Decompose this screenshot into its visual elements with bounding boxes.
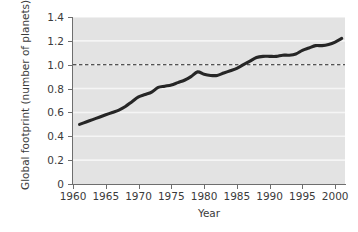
y-tick-label: 0.6 xyxy=(36,106,64,118)
y-tick-label: 0.4 xyxy=(36,130,64,142)
x-tick-mark xyxy=(302,185,303,189)
x-axis-title: Year xyxy=(73,207,345,219)
x-tick-mark xyxy=(204,185,205,189)
data-series-group xyxy=(80,38,342,124)
chart-figure: Global footprint (number of planets) 00.… xyxy=(0,0,358,232)
y-tick-mark xyxy=(68,65,72,66)
x-tick-mark xyxy=(171,185,172,189)
y-tick-mark xyxy=(68,17,72,18)
x-tick-mark xyxy=(237,185,238,189)
y-tick-label: 1.2 xyxy=(36,35,64,47)
y-tick-mark xyxy=(68,112,72,113)
gridlines xyxy=(73,17,345,160)
y-tick-mark xyxy=(68,184,72,185)
x-tick-mark xyxy=(106,185,107,189)
y-tick-label: 0 xyxy=(36,178,64,190)
y-tick-label: 1.4 xyxy=(36,11,64,23)
x-tick-mark xyxy=(335,185,336,189)
y-tick-label: 0.8 xyxy=(36,83,64,95)
y-tick-label: 1.0 xyxy=(36,59,64,71)
x-tick-mark xyxy=(139,185,140,189)
y-axis-line xyxy=(72,17,73,185)
x-tick-mark xyxy=(73,185,74,189)
y-tick-label: 0.2 xyxy=(36,154,64,166)
y-tick-mark xyxy=(68,89,72,90)
y-axis-title: Global footprint (number of planets) xyxy=(17,4,34,190)
y-tick-mark xyxy=(68,41,72,42)
plot-canvas xyxy=(73,17,345,184)
plot-area xyxy=(73,17,345,184)
x-tick-label: 2000 xyxy=(315,190,355,202)
y-tick-mark xyxy=(68,160,72,161)
x-axis-line xyxy=(72,184,346,185)
y-tick-mark xyxy=(68,136,72,137)
x-tick-mark xyxy=(270,185,271,189)
